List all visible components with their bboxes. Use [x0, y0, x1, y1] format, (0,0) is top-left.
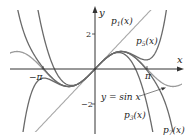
x-axis-label: x	[177, 54, 183, 65]
x-tick-neg-pi: −π	[29, 72, 44, 82]
y-axis	[92, 6, 98, 134]
svg-text:p1(x): p1(x)	[111, 16, 133, 27]
y-axis-label: y	[98, 7, 105, 18]
svg-text:p5(x): p5(x)	[136, 36, 158, 47]
svg-text:p7(x): p7(x)	[163, 125, 185, 135]
x-tick-pi: π	[144, 71, 152, 81]
y-tick-2: 2	[86, 30, 91, 39]
y-tick-neg2: −2	[81, 100, 93, 109]
label-p5: p5(x)	[136, 36, 158, 47]
taylor-polynomials-diagram: y x 2 −2 −π π p1(x) p5(x) y = sin x p3(x…	[0, 0, 189, 135]
label-sin: y = sin x	[100, 88, 166, 103]
svg-text:y = sin x: y = sin x	[100, 92, 141, 102]
label-p3: p3(x)	[124, 110, 146, 121]
label-p1: p1(x)	[111, 16, 133, 27]
label-p7: p7(x)	[163, 125, 185, 135]
svg-text:p3(x): p3(x)	[124, 110, 146, 121]
